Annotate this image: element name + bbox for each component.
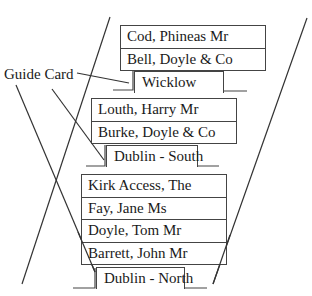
dublin-north-tab-ledge-left: [73, 268, 95, 288]
card-entry: Burke, Doyle & Co: [91, 121, 237, 144]
guide-card-label: Guide Card: [4, 65, 74, 83]
card-entry: Kirk Access, The: [81, 174, 227, 198]
card-entry: Barrett, John Mr: [81, 242, 227, 265]
card-group-dublin-north: Kirk Access, The Fay, Jane Ms Doyle, Tom…: [81, 174, 227, 265]
card-entry: Louth, Harry Mr: [91, 98, 237, 122]
guide-tab-wicklow: Wicklow: [134, 71, 224, 93]
card-entry: Doyle, Tom Mr: [81, 219, 227, 243]
callout-leader-wicklow: [77, 73, 129, 83]
card-entry: Bell, Doyle & Co: [120, 48, 266, 71]
card-group-dublin-south: Louth, Harry Mr Burke, Doyle & Co: [91, 98, 237, 144]
card-group-wicklow: Cod, Phineas Mr Bell, Doyle & Co: [120, 25, 266, 71]
guide-tab-dublin-south: Dublin - South: [106, 145, 198, 167]
card-entry: Cod, Phineas Mr: [120, 25, 266, 49]
wicklow-tab-ledge-right: [223, 71, 247, 91]
card-entry: Fay, Jane Ms: [81, 197, 227, 220]
guide-tab-dublin-north: Dublin - North: [96, 267, 185, 289]
